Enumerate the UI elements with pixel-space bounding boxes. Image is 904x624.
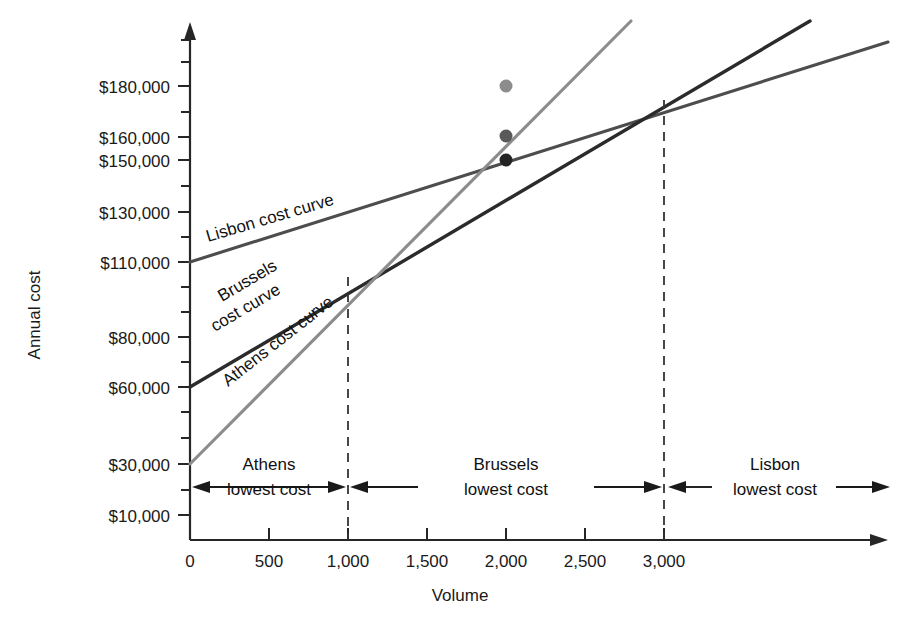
data-point-lisbon-2000 (500, 130, 513, 143)
y-tick-label-80000: $80,000 (109, 329, 170, 348)
brussels-curve-label: Brussels cost curve (207, 256, 283, 335)
y-tick-label-60000: $60,000 (109, 379, 170, 398)
y-tick-label-150000: $150,000 (99, 152, 170, 171)
x-tick-label-1500: 1,500 (406, 552, 449, 571)
brussels-region-label: Brussels lowest cost (464, 455, 548, 499)
x-axis-title: Volume (432, 586, 489, 605)
x-tick-labels: 0 500 1,000 1,500 2,000 2,500 3,000 (185, 552, 685, 571)
athens-region-label-line1: Athens (243, 455, 296, 474)
x-tick-label-2500: 2,500 (564, 552, 607, 571)
x-tick-label-3000: 3,000 (643, 552, 686, 571)
brussels-region-label-line2: lowest cost (464, 480, 548, 499)
athens-region-label: Athens lowest cost (227, 455, 311, 499)
y-tick-label-10000: $10,000 (109, 507, 170, 526)
y-tick-label-130000: $130,000 (99, 204, 170, 223)
x-tick-label-500: 500 (255, 552, 283, 571)
y-tick-marks (178, 40, 190, 515)
y-tick-labels: $180,000 $160,000 $150,000 $130,000 $110… (99, 78, 170, 526)
y-tick-label-160000: $160,000 (99, 129, 170, 148)
athens-region-label-line2: lowest cost (227, 480, 311, 499)
y-axis-arrowhead (184, 22, 196, 40)
x-tick-marks (190, 528, 664, 540)
y-axis-title: Annual cost (25, 270, 44, 359)
lisbon-region-label-line1: Lisbon (750, 455, 800, 474)
x-axis-arrowhead (870, 534, 888, 546)
lisbon-region-label: Lisbon lowest cost (733, 455, 817, 499)
y-tick-label-180000: $180,000 (99, 78, 170, 97)
lisbon-region-label-line2: lowest cost (733, 480, 817, 499)
x-tick-label-1000: 1,000 (327, 552, 370, 571)
y-tick-label-110000: $110,000 (100, 254, 170, 273)
x-tick-label-0: 0 (185, 552, 194, 571)
x-tick-label-2000: 2,000 (485, 552, 528, 571)
y-tick-label-30000: $30,000 (109, 456, 170, 475)
data-point-brussels-2000 (500, 154, 513, 167)
chart-canvas: $180,000 $160,000 $150,000 $130,000 $110… (0, 0, 904, 624)
brussels-region-label-line1: Brussels (473, 455, 538, 474)
cost-volume-chart: $180,000 $160,000 $150,000 $130,000 $110… (0, 0, 904, 624)
lisbon-cost-curve (190, 42, 888, 262)
data-point-athens-2000 (500, 80, 513, 93)
